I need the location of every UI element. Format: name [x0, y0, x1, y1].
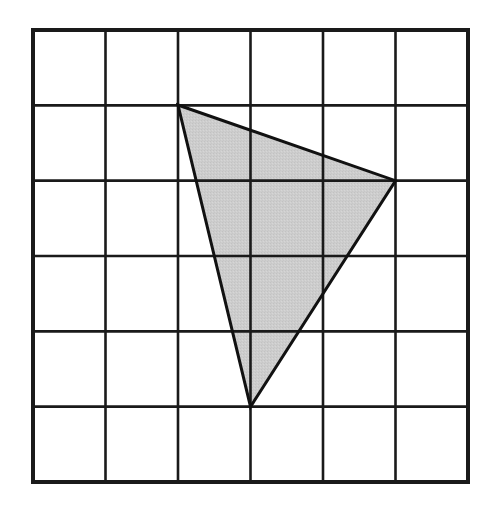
grid-cell	[396, 407, 469, 482]
grid-cell	[396, 331, 469, 406]
grid-cell	[396, 181, 469, 256]
grid-cell	[396, 105, 469, 180]
grid-cell	[106, 407, 179, 482]
grid-triangle-figure	[0, 0, 484, 512]
figure-container	[0, 0, 484, 512]
grid-cell	[33, 407, 106, 482]
grid-cell	[251, 407, 324, 482]
grid-cell	[106, 331, 179, 406]
grid-cell	[33, 30, 106, 105]
grid-cell	[33, 181, 106, 256]
grid-cell	[33, 105, 106, 180]
grid-cell	[178, 407, 251, 482]
grid-cell	[251, 30, 324, 105]
grid-cell	[323, 30, 396, 105]
grid-cell	[106, 256, 179, 331]
grid-cell	[33, 331, 106, 406]
grid-cell	[323, 407, 396, 482]
grid-cell	[106, 105, 179, 180]
grid-cell	[396, 30, 469, 105]
grid-cell	[178, 30, 251, 105]
grid-cell	[106, 30, 179, 105]
grid-cell	[33, 256, 106, 331]
grid-cell	[396, 256, 469, 331]
grid-cell	[323, 331, 396, 406]
grid-cell	[106, 181, 179, 256]
